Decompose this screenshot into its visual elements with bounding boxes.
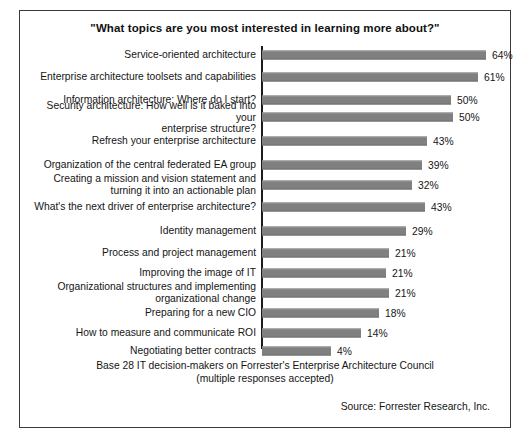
figure-panel: "What topics are you most interested in … [19,10,511,428]
bar-value-label: 18% [385,308,406,319]
bar-row: Preparing for a new CIO18% [20,303,512,323]
chart-title: "What topics are you most interested in … [20,22,510,34]
bar [262,113,453,122]
bar-row: Enterprise architecture toolsets and cap… [20,67,512,87]
bar-category-label: Preparing for a new CIO [24,307,256,319]
base-note: Base 28 IT decision-makers on Forrester'… [20,359,510,385]
bar [262,289,389,298]
bar-value-label: 4% [337,346,352,357]
bar-row: Organizational structures and implementi… [20,283,512,303]
bar-row: Refresh your enterprise architecture43% [20,131,512,151]
bar-category-label: Enterprise architecture toolsets and cap… [24,71,256,83]
bar-value-label: 32% [418,180,439,191]
bar-value-label: 64% [492,50,513,61]
bar [262,137,427,146]
bar [262,181,412,190]
bar [262,73,478,82]
bar-category-label: Process and project management [24,247,256,259]
bar [262,347,331,356]
bar-category-label: Negotiating better contracts [24,345,256,357]
bar-row: Identity management29% [20,221,512,241]
bar-value-label: 21% [395,248,416,259]
bar-value-label: 50% [457,95,478,106]
bar-value-label: 39% [428,160,449,171]
bar-row: How to measure and communicate ROI14% [20,323,512,343]
bar-category-label: Organizational structures and implementi… [24,281,256,304]
bar-value-label: 43% [431,202,452,213]
bar-category-label: Service-oriented architecture [24,49,256,61]
bar-row: What's the next driver of enterprise arc… [20,197,512,217]
bar-value-label: 14% [367,328,388,339]
bar-row: Service-oriented architecture64% [20,45,512,65]
bar-category-label: How to measure and communicate ROI [24,327,256,339]
bar [262,96,451,105]
bar-value-label: 29% [412,226,433,237]
bar [262,329,361,338]
bar-category-label: Creating a mission and vision statement … [24,173,256,196]
bar [262,309,379,318]
bar-row: Organization of the central federated EA… [20,155,512,175]
bar [262,203,425,212]
bar [262,51,486,60]
bar [262,161,422,170]
bar-value-label: 50% [459,112,480,123]
source-note: Source: Forrester Research, Inc. [341,401,490,412]
bar-value-label: 61% [484,72,505,83]
bar-row: Improving the image of IT21% [20,263,512,283]
bar-row: Process and project management21% [20,243,512,263]
bar [262,269,386,278]
bar-category-label: What's the next driver of enterprise arc… [24,201,256,213]
bar-category-label: Security architecture: How well is it ba… [24,100,256,135]
bar [262,227,406,236]
bar-category-label: Organization of the central federated EA… [24,159,256,171]
bar-value-label: 21% [392,268,413,279]
bar-category-label: Improving the image of IT [24,267,256,279]
bar-row: Negotiating better contracts4% [20,341,512,361]
bar-category-label: Refresh your enterprise architecture [24,135,256,147]
bar-row: Creating a mission and vision statement … [20,175,512,195]
bar-category-label: Identity management [24,225,256,237]
bar [262,249,389,258]
bar-value-label: 21% [395,288,416,299]
bar-value-label: 43% [433,136,454,147]
bar-chart-plot: Service-oriented architecture64%Enterpri… [20,45,512,351]
bar-row: Security architecture: How well is it ba… [20,107,512,127]
